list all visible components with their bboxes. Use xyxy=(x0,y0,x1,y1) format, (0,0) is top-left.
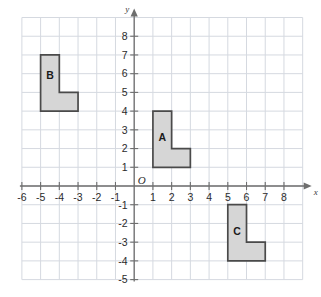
x-tick-label: 4 xyxy=(206,191,212,203)
y-tick-label: -3 xyxy=(118,236,127,248)
x-tick-label: -3 xyxy=(73,191,82,203)
y-axis-name-label: y xyxy=(124,4,129,14)
x-tick-label: -5 xyxy=(36,191,45,203)
x-tick-label: 6 xyxy=(244,191,250,203)
coordinate-grid-figure: -6-5-4-3-2-11234567887654321-1-2-3-4-5 A… xyxy=(0,0,321,297)
y-tick-label: 7 xyxy=(122,49,128,61)
coordinate-plane-svg: -6-5-4-3-2-11234567887654321-1-2-3-4-5 A… xyxy=(0,0,321,297)
x-tick-label: -2 xyxy=(92,191,101,203)
shape-label-a: A xyxy=(158,131,166,143)
shape-label-b: B xyxy=(46,69,54,81)
y-tick-label: 8 xyxy=(122,30,128,42)
x-tick-label: -6 xyxy=(17,191,26,203)
origin-label: O xyxy=(138,174,146,186)
x-tick-label: 8 xyxy=(281,191,287,203)
x-tick-label: 5 xyxy=(225,191,231,203)
y-tick-label: -1 xyxy=(118,199,127,211)
x-tick-label: -4 xyxy=(55,191,64,203)
y-tick-label: -5 xyxy=(118,273,127,285)
x-tick-label: 2 xyxy=(169,191,175,203)
y-tick-label: 6 xyxy=(122,67,128,79)
x-tick-label: 1 xyxy=(150,191,156,203)
y-tick-label: 4 xyxy=(122,105,128,117)
x-tick-label: 3 xyxy=(187,191,193,203)
y-tick-label: -2 xyxy=(118,217,127,229)
y-tick-label: -4 xyxy=(118,255,127,267)
x-tick-label: 7 xyxy=(262,191,268,203)
y-tick-label: 2 xyxy=(122,142,128,154)
y-tick-label: 5 xyxy=(122,86,128,98)
y-tick-label: 1 xyxy=(122,161,128,173)
shape-label-c: C xyxy=(233,225,241,237)
y-tick-label: 3 xyxy=(122,124,128,136)
x-axis-name-label: x xyxy=(313,187,318,197)
